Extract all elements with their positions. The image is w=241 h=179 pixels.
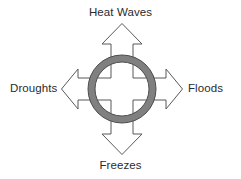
diagram-canvas: Heat Waves Floods Freezes Droughts: [0, 0, 241, 179]
label-freezes: Freezes: [0, 160, 241, 172]
label-droughts: Droughts: [10, 83, 57, 95]
label-heat-waves: Heat Waves: [0, 7, 241, 19]
label-floods: Floods: [188, 83, 223, 95]
